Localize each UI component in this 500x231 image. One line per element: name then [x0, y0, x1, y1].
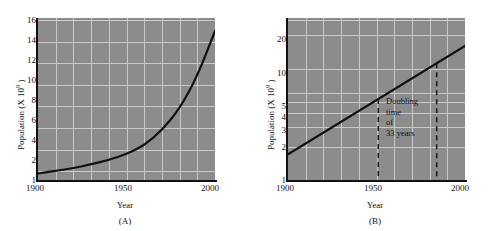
x-tick-a-1900: 1900	[26, 184, 44, 193]
annotation-line-2: time	[386, 107, 418, 118]
doubling-time-annotation: Doubling time of 33 years	[386, 96, 418, 138]
population-line-b	[288, 18, 465, 180]
y-tick-b-10: 10	[277, 68, 286, 77]
x-tick-b-2000: 2000	[451, 184, 469, 193]
annotation-line-4: 33 years	[386, 128, 418, 139]
y-tick-a-12: 12	[27, 56, 36, 65]
figure-caption-a: (A)	[0, 216, 250, 226]
x-tick-a-2000: 2000	[201, 184, 219, 193]
y-axis-ticks-a: 16 14 12 10 8 6 4 2 1	[0, 0, 36, 231]
x-tick-b-1950: 1950	[364, 184, 382, 193]
x-axis-label-a: Year	[0, 200, 250, 210]
x-axis-label-b: Year	[250, 200, 500, 210]
y-axis-line-a	[36, 18, 38, 182]
y-tick-a-10: 10	[27, 76, 36, 85]
x-axis-line-a	[36, 180, 217, 182]
y-tick-b-20: 20	[277, 35, 286, 44]
figure-panel-b: Population (X 109 ) 20 10 5 4 3 2 1	[250, 0, 500, 231]
figure-panel-a: Population (X 109 ) 16 14 12 10 8 6 4 2 …	[0, 0, 250, 231]
x-tick-a-1950: 1950	[114, 184, 132, 193]
plot-area-b: Doubling time of 33 years	[288, 18, 465, 180]
population-curve-a	[38, 18, 215, 180]
figure-caption-b: (B)	[250, 216, 500, 226]
x-axis-line-b	[286, 180, 467, 182]
annotation-line-3: of	[386, 117, 418, 128]
x-tick-b-1900: 1900	[276, 184, 294, 193]
plot-area-a	[38, 18, 215, 180]
annotation-line-1: Doubling	[386, 96, 418, 107]
y-tick-a-14: 14	[27, 36, 36, 45]
y-tick-a-16: 16	[27, 16, 36, 25]
y-axis-line-b	[286, 18, 288, 182]
y-axis-ticks-b: 20 10 5 4 3 2 1	[250, 0, 286, 231]
